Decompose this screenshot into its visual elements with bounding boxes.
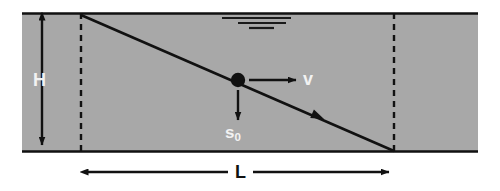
point-mass (231, 73, 245, 87)
height-label: H (33, 71, 46, 89)
separation-label-subscript: 0 (234, 131, 240, 143)
velocity-label: v (303, 70, 313, 88)
separation-label: s0 (225, 124, 241, 141)
physics-diagram-figure: H v s0 L (0, 0, 500, 191)
length-label: L (235, 163, 246, 181)
shaded-region (22, 13, 478, 152)
diagram-canvas (0, 0, 500, 191)
